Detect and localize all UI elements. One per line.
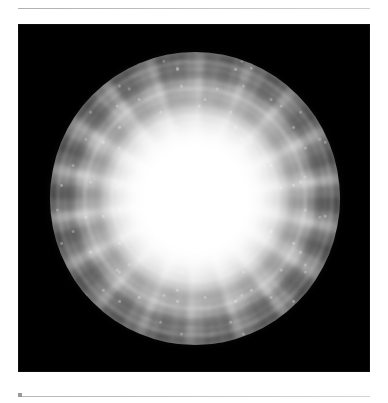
running-head (0, 0, 388, 8)
sphere-limb-falloff-layer (50, 52, 340, 345)
bottom-rule-tick (18, 393, 22, 397)
bottom-separator-rule (18, 396, 370, 397)
sphere-visualization (50, 52, 340, 345)
top-separator-rule (18, 8, 370, 9)
figure-panel (18, 24, 370, 372)
